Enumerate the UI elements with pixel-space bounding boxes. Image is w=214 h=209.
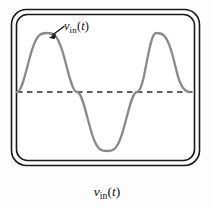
figure-caption: vin(t) <box>0 185 214 200</box>
waveform-canvas <box>0 0 214 209</box>
caption-signal-subscript: in <box>100 190 108 201</box>
inline-signal-label: vin(t) <box>64 20 89 35</box>
inner-border-rect <box>17 15 195 161</box>
caption-signal-argument: (t) <box>108 184 121 199</box>
inline-signal-argument: (t) <box>77 19 89 33</box>
waveform-figure: vin(t) vin(t) <box>0 0 214 209</box>
inline-signal-subscript: in <box>70 25 77 35</box>
